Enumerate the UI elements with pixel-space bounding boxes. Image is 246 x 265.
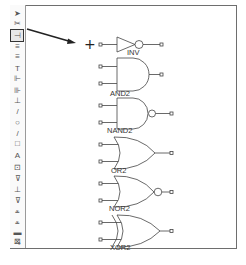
gate-label: NAND2 xyxy=(107,126,132,135)
gate-or2[interactable]: OR2 xyxy=(99,137,173,175)
gate-label: NOR2 xyxy=(109,204,130,213)
gate-xor2[interactable]: XOR2 xyxy=(99,215,173,252)
gate-label: INV xyxy=(127,48,140,57)
gate-and2[interactable]: AND2 xyxy=(99,58,163,98)
schematic-canvas[interactable]: + INV AND2 NAND2 xyxy=(0,0,246,265)
gate-nand2[interactable]: NAND2 xyxy=(99,98,173,135)
crosshair-cursor-icon: + xyxy=(84,36,96,52)
gate-inv[interactable]: INV xyxy=(99,37,163,57)
gate-label: XOR2 xyxy=(110,243,130,252)
annotation-arrow xyxy=(27,29,76,44)
gate-label: AND2 xyxy=(110,89,130,98)
gate-nor2[interactable]: NOR2 xyxy=(99,176,173,213)
gate-label: OR2 xyxy=(111,166,126,175)
